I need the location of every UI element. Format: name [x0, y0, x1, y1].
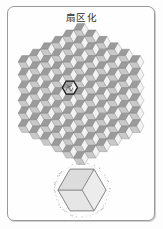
tiling-cells-layer — [18, 24, 144, 165]
figure-title: 扇区化 — [0, 12, 163, 23]
inset-cube-faces — [58, 169, 106, 211]
rhombille-tiling-svg — [9, 24, 154, 164]
isometric-cube-svg — [47, 163, 117, 217]
hexagonal-tiling-figure — [9, 24, 154, 164]
single-sector-inset — [47, 163, 117, 217]
scanned-page: 扇区化 — [0, 0, 163, 229]
